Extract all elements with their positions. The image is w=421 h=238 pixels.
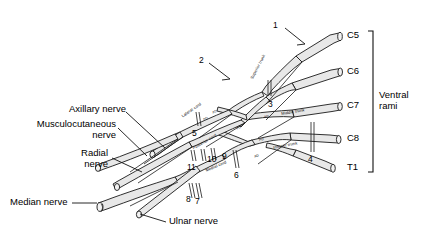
ulnar-nerve-label: Ulnar nerve — [169, 216, 218, 227]
divisions-group — [217, 92, 270, 159]
ventral-rami-label-line2: rami — [379, 101, 397, 112]
callout-6: 6 — [234, 171, 239, 181]
callout-3: 3 — [268, 100, 273, 110]
leader-ulnar — [140, 214, 166, 222]
division-label-pd-3: PD — [259, 138, 264, 143]
leader-2 — [209, 63, 230, 80]
callout-5: 5 — [192, 129, 197, 139]
division-label-ad-2: AD — [264, 115, 269, 120]
callout-11: 11 — [187, 163, 196, 173]
root-c8 — [290, 133, 341, 144]
callout-10: 10 — [207, 155, 216, 165]
root-c5 — [296, 32, 342, 62]
callout-9: 9 — [222, 152, 227, 162]
callout-2: 2 — [199, 56, 204, 66]
ventral-rami-bracket — [368, 31, 373, 172]
root-label-c7: C7 — [347, 100, 359, 111]
callout-8: 8 — [186, 195, 191, 205]
callout-1: 1 — [273, 21, 278, 31]
musculocutaneous-nerve-label-line2: nerve — [8, 130, 116, 141]
root-label-c8: C8 — [347, 133, 359, 144]
callout-7: 7 — [195, 197, 200, 207]
callout-4: 4 — [308, 155, 313, 165]
leader-1 — [285, 28, 305, 45]
root-label-c5: C5 — [347, 30, 359, 41]
axillary-nerve-label: Axillary nerve — [41, 104, 126, 115]
median-nerve-label: Median nerve — [10, 197, 68, 208]
brachial-plexus-figure: C5 C6 C7 C8 T1 Ventral rami Superior tru… — [0, 0, 421, 238]
radial-nerve-label-line2: nerve — [40, 159, 108, 170]
root-label-t1: T1 — [347, 162, 358, 173]
root-c6 — [292, 68, 343, 90]
leader-axillary — [126, 112, 165, 148]
root-t1 — [293, 150, 335, 172]
root-label-c6: C6 — [347, 66, 359, 77]
